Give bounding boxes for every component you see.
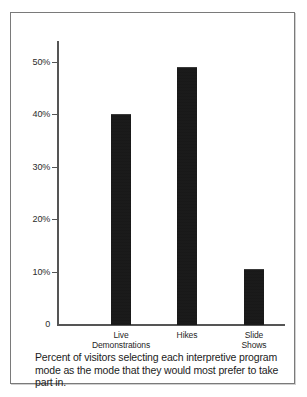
x-category-label-0: Live Demonstrations [92, 330, 150, 350]
y-tick-mark [52, 167, 58, 168]
x-category-label-2: Slide Shows [241, 330, 266, 350]
y-tick-mark [52, 62, 58, 63]
y-tick-mark [52, 114, 58, 115]
x-category-line-2: Demonstrations [92, 340, 150, 350]
chart-caption: Percent of visitors selecting each inter… [35, 351, 287, 389]
bar-live-demonstrations[interactable] [111, 114, 131, 325]
y-tick-label: 30% [33, 162, 50, 172]
x-category-line-1: Live [92, 330, 150, 340]
y-tick-label: 40% [33, 109, 50, 119]
bar-slide-shows[interactable] [244, 269, 264, 325]
y-tick-label: 50% [33, 57, 50, 67]
y-tick-label: 10% [33, 267, 50, 277]
x-category-line-1: Hikes [177, 330, 198, 340]
plot-area: 50% 40% 30% 20% 10% 0 [57, 41, 293, 324]
x-category-line-2: Shows [241, 340, 266, 350]
y-tick-label: 20% [33, 214, 50, 224]
bar-hikes[interactable] [177, 67, 197, 325]
chart-frame: 50% 40% 30% 20% 10% 0 [10, 12, 295, 384]
y-axis-line [57, 41, 59, 325]
y-tick-mark [52, 219, 58, 220]
figure: 50% 40% 30% 20% 10% 0 [0, 0, 307, 397]
y-tick-label: 0 [45, 319, 50, 329]
x-category-line-1: Slide [241, 330, 266, 340]
y-tick-mark [52, 272, 58, 273]
x-category-label-1: Hikes [177, 330, 198, 340]
